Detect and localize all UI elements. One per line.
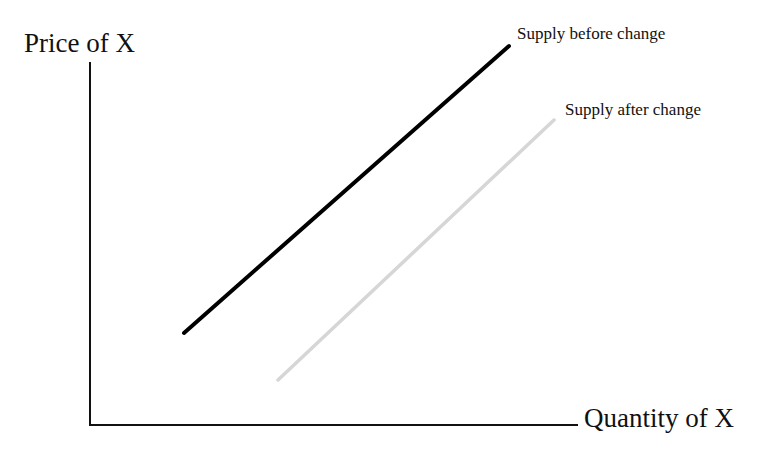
- y-axis-label: Price of X: [24, 28, 135, 59]
- supply-before-label: Supply before change: [517, 24, 665, 44]
- supply-shift-diagram: [0, 0, 768, 449]
- x-axis-label: Quantity of X: [584, 403, 734, 434]
- supply-after-line: [278, 120, 554, 380]
- supply-before-line: [184, 46, 509, 333]
- supply-after-label: Supply after change: [565, 100, 701, 120]
